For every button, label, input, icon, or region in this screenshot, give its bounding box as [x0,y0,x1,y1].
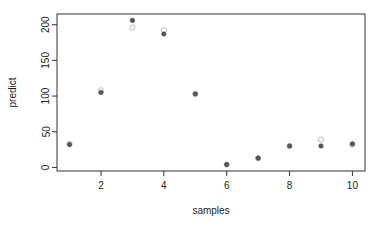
scatter-chart: 050100150200 246810 samples predict [0,0,375,227]
y-tick-label: 100 [41,87,52,104]
y-axis: 050100150200 [41,16,58,170]
data-points [67,18,355,167]
y-tick-label: 0 [41,164,52,170]
series-actual [67,25,355,167]
data-point [130,18,135,23]
data-point [130,25,135,30]
data-point [99,90,104,95]
x-tick-label: 8 [287,180,293,191]
data-point [193,92,198,97]
y-tick-label: 50 [41,126,52,138]
y-tick-label: 200 [41,16,52,33]
data-point [318,137,323,142]
data-point [256,156,261,161]
data-point [350,142,355,147]
data-point [319,144,324,149]
x-tick-label: 2 [98,180,104,191]
x-axis-title: samples [192,205,229,216]
data-point [224,162,229,167]
data-point [162,32,167,37]
series-predict [67,18,354,167]
y-axis-title: predict [7,77,18,107]
x-tick-label: 6 [224,180,230,191]
x-tick-label: 10 [347,180,359,191]
data-point [67,142,72,147]
x-tick-label: 4 [161,180,167,191]
x-axis: 246810 [98,171,358,191]
data-point [287,144,292,149]
y-tick-label: 150 [41,52,52,69]
